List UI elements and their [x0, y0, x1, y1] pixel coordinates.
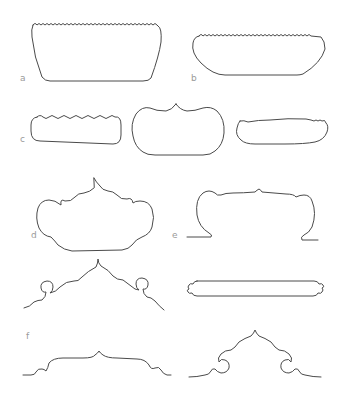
shape-c-middle-outline [132, 104, 224, 155]
shape-e-outline [187, 189, 318, 240]
label-c: c [20, 135, 25, 144]
shape-b-outline [193, 35, 325, 76]
shape-f-bar-outline [187, 281, 324, 296]
label-b: b [191, 74, 197, 83]
shape-f-top-left-outline [24, 259, 164, 310]
ornament-outlines-figure [0, 0, 351, 402]
label-e: e [172, 231, 178, 240]
shape-d-outline [37, 178, 154, 251]
label-d: d [31, 231, 37, 240]
shape-a-outline [32, 24, 162, 82]
label-a: a [20, 74, 26, 83]
shape-c-right-outline [237, 119, 328, 144]
shape-f-bottom-left-outline [23, 351, 171, 375]
shape-c-left-outline [31, 116, 121, 145]
label-f: f [26, 332, 29, 341]
shape-f-bottom-right-outline [189, 330, 321, 377]
